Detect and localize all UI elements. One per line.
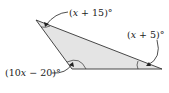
arrow-right <box>148 40 158 65</box>
triangle-shape <box>36 20 162 69</box>
angle-label-right: (x + 5)° <box>127 29 165 40</box>
angle-label-top: (x + 15)° <box>69 7 113 18</box>
arrow-top <box>46 12 68 25</box>
angle-label-bottom-left: (10x − 20)° <box>5 67 61 78</box>
triangle-diagram: (x + 15)° (x + 5)° (10x − 20)° <box>0 0 169 93</box>
